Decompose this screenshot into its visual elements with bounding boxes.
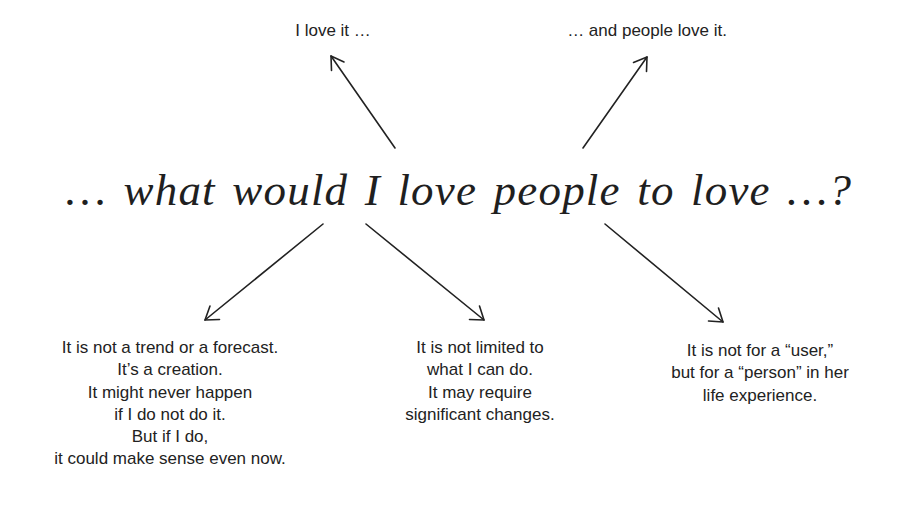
note-line: But if I do, bbox=[0, 426, 340, 448]
note-line: It is not for a “user,” bbox=[630, 340, 890, 362]
note-not-a-trend: It is not a trend or a forecast. It’s a … bbox=[0, 337, 340, 471]
note-line: It might never happen bbox=[0, 382, 340, 404]
note-line: it could make sense even now. bbox=[0, 448, 340, 470]
label-people-love-it: … and people love it. bbox=[537, 20, 757, 42]
note-line: It’s a creation. bbox=[0, 359, 340, 381]
note-not-limited: It is not limited to what I can do. It m… bbox=[365, 337, 595, 426]
arrow-down-left-icon bbox=[205, 224, 323, 320]
note-line: It is not a trend or a forecast. bbox=[0, 337, 340, 359]
note-line: It may require bbox=[365, 382, 595, 404]
label-i-love-it: I love it … bbox=[238, 20, 428, 42]
note-line: what I can do. bbox=[365, 359, 595, 381]
note-line: but for a “person” in her bbox=[630, 362, 890, 384]
note-line: life experience. bbox=[630, 385, 890, 407]
note-for-a-person: It is not for a “user,” but for a “perso… bbox=[630, 340, 890, 407]
arrow-down-right-icon bbox=[366, 224, 484, 320]
arrow-up-right-icon bbox=[583, 57, 647, 148]
note-line: if I do not do it. bbox=[0, 404, 340, 426]
central-question-headline: … what would I love people to love …? bbox=[0, 162, 918, 218]
arrow-down-right-icon bbox=[605, 224, 723, 322]
note-line: significant changes. bbox=[365, 404, 595, 426]
note-line: It is not limited to bbox=[365, 337, 595, 359]
arrow-up-left-icon bbox=[331, 56, 395, 148]
